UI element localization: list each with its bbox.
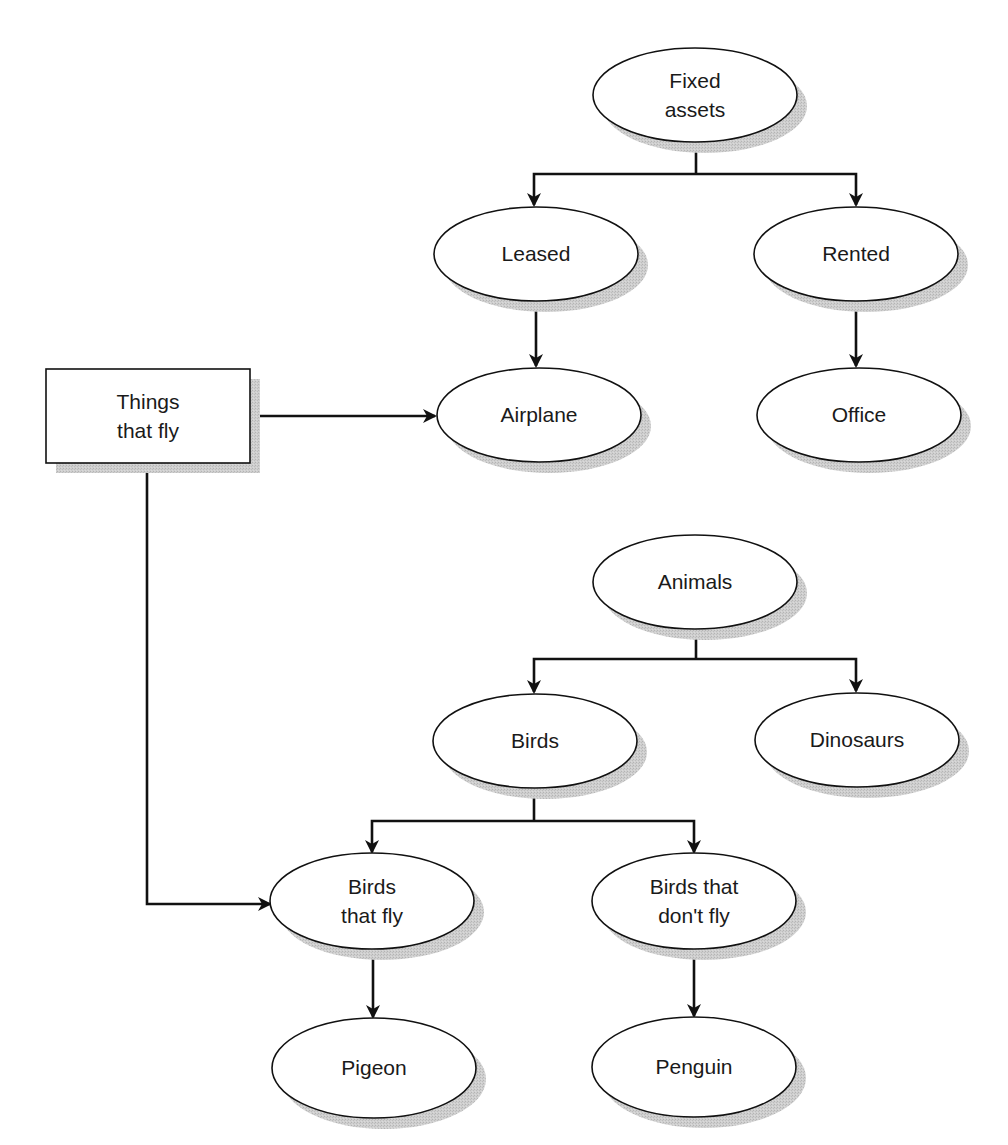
node-dinosaurs: Dinosaurs	[755, 693, 969, 798]
node-airplane: Airplane	[437, 368, 651, 473]
edge-fixed-assets-to-rented	[696, 174, 856, 205]
edge-birds-to-birds-that-fly	[372, 821, 534, 852]
node-penguin: Penguin	[592, 1017, 806, 1128]
hierarchy-diagram: Fixed assets Leased Rented Airplane Offi…	[0, 0, 1008, 1145]
edge-things-that-fly-to-birds-that-fly	[147, 463, 270, 904]
node-label: Rented	[822, 242, 890, 265]
node-label-line-2: assets	[665, 98, 726, 121]
node-leased: Leased	[434, 207, 648, 312]
node-pigeon: Pigeon	[272, 1018, 486, 1129]
node-label: Leased	[502, 242, 571, 265]
node-label-line-1: Birds	[348, 875, 396, 898]
node-label-line-2: that fly	[341, 904, 403, 927]
node-label: Airplane	[500, 403, 577, 426]
node-ellipse	[593, 48, 797, 142]
node-label: Pigeon	[341, 1056, 406, 1079]
node-fixed-assets: Fixed assets	[593, 48, 807, 153]
node-label-line-1: Things	[116, 390, 179, 413]
node-birds-that-fly: Birds that fly	[270, 853, 484, 960]
node-label-line-2: don't fly	[658, 904, 730, 927]
node-label: Birds	[511, 729, 559, 752]
node-things-that-fly: Things that fly	[46, 369, 260, 473]
node-rectangle	[46, 369, 250, 463]
node-ellipse	[592, 853, 796, 949]
node-ellipse	[270, 853, 474, 949]
node-birds: Birds	[433, 694, 647, 799]
node-label-line-1: Birds that	[650, 875, 739, 898]
edge-birds-to-birds-that-dont-fly	[534, 821, 694, 852]
node-rented: Rented	[754, 207, 968, 312]
node-office: Office	[757, 368, 971, 473]
node-label: Penguin	[655, 1055, 732, 1078]
node-label-line-2: that fly	[117, 419, 179, 442]
node-label: Dinosaurs	[810, 728, 905, 751]
node-birds-that-dont-fly: Birds that don't fly	[592, 853, 806, 960]
edge-fixed-assets-to-leased	[534, 174, 696, 205]
node-label-line-1: Fixed	[669, 69, 720, 92]
edge-animals-to-dinosaurs	[696, 659, 856, 691]
node-label: Office	[832, 403, 886, 426]
node-label: Animals	[658, 570, 733, 593]
edge-animals-to-birds	[534, 659, 696, 692]
node-animals: Animals	[593, 535, 807, 640]
